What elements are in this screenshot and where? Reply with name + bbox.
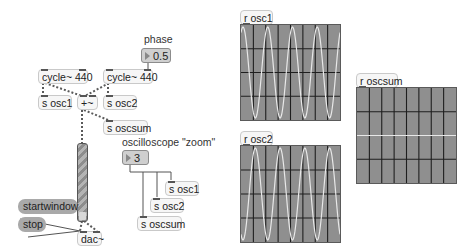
- zoom-number-box[interactable]: 3: [122, 150, 149, 165]
- object-text: cycle~ 440: [107, 71, 158, 83]
- object-text: s osc1: [42, 97, 72, 109]
- inlet-icon: [41, 69, 48, 71]
- inlet-icon: [89, 95, 96, 97]
- number-triangle-icon: [145, 52, 150, 60]
- inlet-icon: [106, 69, 113, 71]
- inlet-icon: [144, 69, 151, 71]
- dac-object[interactable]: dac~: [77, 231, 102, 246]
- gain-slider-knob[interactable]: [79, 212, 86, 220]
- phase-number-box[interactable]: 0.5: [141, 48, 171, 63]
- scope-oscsum-display: [357, 88, 456, 183]
- object-text: s oscsum: [107, 122, 151, 134]
- inlet-icon: [140, 216, 147, 218]
- object-text: s oscsum: [141, 218, 185, 230]
- zoom-send-oscsum-object[interactable]: s oscsum: [137, 216, 182, 231]
- object-text: s osc1: [169, 183, 199, 195]
- inlet-icon: [93, 231, 100, 233]
- scope-oscsum[interactable]: [356, 87, 457, 184]
- scope-osc2-display: [241, 146, 340, 242]
- send-oscsum-object[interactable]: s oscsum: [103, 120, 148, 135]
- object-text: r oscsum: [360, 75, 403, 87]
- zoom-send-osc1-object[interactable]: s osc1: [165, 181, 199, 196]
- object-text: cycle~ 440: [42, 71, 93, 83]
- inlet-icon: [80, 95, 87, 97]
- inlet-icon: [106, 120, 113, 122]
- scope-osc1[interactable]: [240, 24, 341, 121]
- send-osc1-object[interactable]: s osc1: [38, 95, 72, 110]
- object-text: +~: [81, 97, 93, 109]
- inlet-icon: [106, 95, 113, 97]
- inlet-icon: [168, 181, 175, 183]
- cycle-osc2-object[interactable]: cycle~ 440: [103, 69, 153, 84]
- cycle-osc1-object[interactable]: cycle~ 440: [38, 69, 88, 84]
- inlet-icon: [153, 198, 160, 200]
- stop-message[interactable]: stop: [18, 217, 46, 232]
- startwindow-message[interactable]: startwindow: [18, 199, 78, 214]
- inlet-icon: [79, 69, 86, 71]
- phase-value: 0.5: [153, 50, 168, 62]
- oscilloscope-zoom-label: oscilloscope "zoom": [122, 136, 215, 148]
- scope-osc2[interactable]: [240, 145, 341, 243]
- object-text: dac~: [81, 233, 104, 245]
- zoom-value: 3: [134, 152, 140, 164]
- plus-signal-object[interactable]: +~: [77, 95, 98, 110]
- zoom-send-osc2-object[interactable]: s osc2: [150, 198, 184, 213]
- number-triangle-icon: [126, 154, 131, 162]
- inlet-icon: [41, 95, 48, 97]
- receive-osc1-object[interactable]: r osc1: [240, 10, 273, 25]
- inlet-icon: [80, 231, 87, 233]
- gain-slider[interactable]: [77, 143, 88, 222]
- object-text: s osc2: [154, 200, 184, 212]
- send-osc2-object[interactable]: s osc2: [103, 95, 137, 110]
- phase-label: phase: [144, 33, 173, 45]
- max-patcher-canvas[interactable]: phase 0.5 cycle~ 440 cycle~ 440 s osc1 +…: [0, 0, 471, 250]
- receive-oscsum-object[interactable]: r oscsum: [356, 73, 398, 88]
- scope-osc1-display: [241, 25, 340, 120]
- receive-osc2-object[interactable]: r osc2: [240, 131, 273, 146]
- object-text: s osc2: [107, 97, 137, 109]
